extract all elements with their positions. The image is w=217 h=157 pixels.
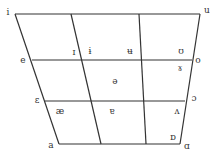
vowel-a: a: [48, 141, 53, 150]
right-edge-line: [180, 14, 200, 144]
vowel-open-o: ɔ: [191, 94, 196, 103]
vowel-script-a: ɑ: [184, 142, 190, 151]
vowel-i: i: [7, 8, 10, 17]
vowel-open-e: ɛ: [35, 96, 40, 105]
vowel-rams-horn: ɤ: [177, 64, 182, 73]
vowel-upsilon: ʊ: [178, 47, 184, 56]
vowel-u: u: [204, 6, 210, 15]
vowel-o: o: [195, 56, 200, 65]
vowel-chart: [0, 0, 217, 157]
vowel-ash: æ: [56, 107, 64, 116]
vowel-turned-script-a: ɒ: [170, 133, 176, 142]
vowel-barred-u: ʉ: [127, 47, 133, 56]
inner-left-line: [71, 14, 101, 144]
inner-right-line: [139, 14, 146, 144]
vowel-small-cap-i: ɪ: [73, 48, 76, 57]
vowel-barred-i: ɨ: [89, 47, 92, 56]
vowel-e: e: [20, 56, 25, 65]
vowel-schwa: ə: [112, 77, 117, 86]
vowel-turned-v: ʌ: [174, 107, 179, 116]
trapezoid-grid: [15, 14, 200, 144]
vowel-turned-a: ɐ: [109, 107, 114, 116]
left-edge-line: [15, 14, 59, 144]
